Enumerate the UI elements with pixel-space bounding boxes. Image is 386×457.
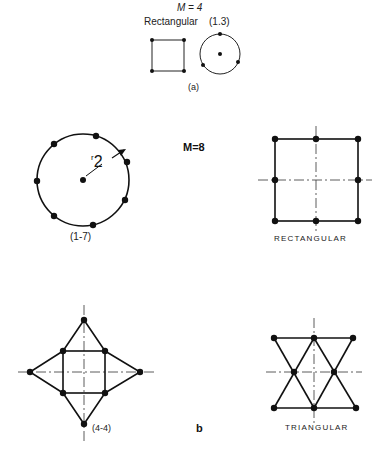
star-label: (4-4) [92, 424, 111, 433]
m4-title: M = 4 [177, 3, 202, 13]
m4-rectangular-figure [152, 40, 184, 71]
m4-rectangular-points [150, 38, 186, 73]
panel-a-caption: (a) [188, 83, 199, 92]
circle-label: (1-7) [70, 232, 91, 242]
m4-rectangular-label: Rectangular [144, 17, 198, 27]
triangular-label: TRIANGULAR [285, 424, 349, 432]
m8-triangular-points [271, 335, 359, 411]
constellation-diagram [0, 0, 386, 457]
m8-triangular-figure [274, 338, 356, 408]
radius-label-sub: 2 [94, 153, 103, 170]
rectangular-label: RECTANGULAR [274, 235, 347, 243]
m4-circular-points [201, 32, 240, 67]
panel-b-caption: b [196, 423, 203, 434]
radius-label: r2 [91, 154, 103, 170]
m8-title: M=8 [183, 142, 205, 153]
m4-circular-label: (1.3) [209, 17, 230, 27]
